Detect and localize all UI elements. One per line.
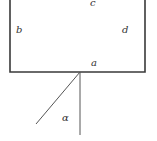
- label-a: a: [91, 57, 97, 68]
- geometry-diagram: c b d a α: [0, 0, 157, 141]
- box-outline: [10, 0, 145, 72]
- slanted-ray: [36, 72, 80, 124]
- label-b: b: [16, 24, 22, 35]
- label-c: c: [90, 0, 96, 8]
- label-d: d: [122, 24, 128, 35]
- label-alpha: α: [62, 112, 69, 123]
